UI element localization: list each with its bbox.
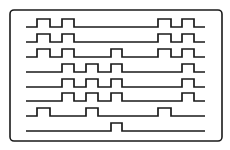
waveform-row-3 [26, 49, 205, 57]
waveform-row-5 [26, 79, 205, 87]
waveform-diagram [0, 0, 230, 150]
waveform-row-1 [26, 19, 205, 27]
waveform-row-4 [26, 64, 205, 72]
waveform-row-7 [26, 108, 205, 116]
waveform-rows [26, 19, 205, 131]
waveform-row-6 [26, 93, 205, 101]
waveform-row-8 [26, 123, 205, 131]
waveform-row-2 [26, 34, 205, 42]
diagram-frame [10, 10, 222, 141]
